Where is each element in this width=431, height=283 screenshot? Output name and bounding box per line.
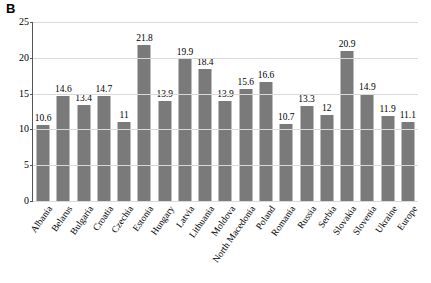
y-gridline [33,58,418,59]
panel-label: B [6,2,15,16]
bar-value-label: 21.8 [136,33,153,43]
bar[interactable] [219,101,232,201]
bar-slot: 18.4 [195,22,215,201]
bar-value-label: 12 [322,103,332,113]
bar[interactable] [280,124,293,201]
bar-slot: 11.9 [377,22,397,201]
bar[interactable] [77,105,90,201]
x-tick-label: Europe [395,204,419,232]
y-tick-label: 0 [24,196,29,206]
y-gridline [33,94,418,95]
bar-slot: 14.7 [94,22,114,201]
y-tick-mark [30,129,33,130]
x-axis-labels: AlbaniaBelarusBulgariaCroatiaCzechiaEsto… [32,204,418,264]
bar-series: 10.614.613.414.71121.813.919.918.413.915… [33,22,418,201]
bar-slot: 11 [114,22,134,201]
bar-slot: 10.7 [276,22,296,201]
bar[interactable] [341,51,354,201]
bar[interactable] [260,82,273,201]
bar[interactable] [320,115,333,201]
y-tick-label: 5 [24,160,29,170]
bar-slot: 14.9 [357,22,377,201]
bar[interactable] [239,89,252,201]
x-tick-label-wrap: Albania [29,204,54,234]
y-tick-mark [30,22,33,23]
y-gridline [33,22,418,23]
bar-slot: 21.8 [134,22,154,201]
y-tick-mark [30,58,33,59]
bar[interactable] [118,122,131,201]
bar-slot: 13.3 [296,22,316,201]
bar[interactable] [300,106,313,201]
x-tick-label-wrap: Europe [395,204,419,232]
bar[interactable] [57,96,70,201]
bar-slot: 14.6 [53,22,73,201]
bar[interactable] [361,94,374,201]
bar-value-label: 11.9 [379,104,395,114]
chart-figure: B 10.614.613.414.71121.813.919.918.413.9… [0,0,431,283]
bar-slot: 13.9 [215,22,235,201]
bar-slot: 11.1 [398,22,418,201]
bar-slot: 15.6 [236,22,256,201]
bar-value-label: 16.6 [258,70,275,80]
bar-value-label: 10.7 [278,112,295,122]
y-tick-label: 10 [19,124,29,134]
y-gridline [33,201,418,202]
bar-slot: 19.9 [175,22,195,201]
bar-value-label: 19.9 [177,47,194,57]
plot-area: 10.614.613.414.71121.813.919.918.413.915… [32,22,418,202]
bar-value-label: 13.3 [298,94,315,104]
x-tick-label-wrap: Russia [295,204,318,230]
x-tick-label: Albania [29,204,54,234]
bar-slot: 16.6 [256,22,276,201]
bar-value-label: 14.7 [96,84,113,94]
bar[interactable] [199,69,212,201]
bar[interactable] [138,45,151,201]
bar-value-label: 14.9 [359,82,376,92]
y-tick-mark [30,201,33,202]
bar-slot: 20.9 [337,22,357,201]
bar-slot: 13.9 [155,22,175,201]
bar-slot: 13.4 [74,22,94,201]
bar-value-label: 20.9 [339,39,356,49]
bar[interactable] [37,125,50,201]
y-tick-mark [30,165,33,166]
bar[interactable] [401,122,414,201]
y-gridline [33,129,418,130]
y-tick-label: 15 [19,89,29,99]
bar[interactable] [97,96,110,201]
bar-value-label: 11 [120,110,129,120]
bar[interactable] [158,101,171,201]
bar-value-label: 10.6 [35,113,52,123]
y-gridline [33,165,418,166]
y-tick-mark [30,94,33,95]
bar-slot: 10.6 [33,22,53,201]
bar-value-label: 11.1 [400,110,416,120]
x-tick-label: Russia [295,204,318,230]
bar-value-label: 15.6 [237,77,254,87]
y-tick-label: 20 [19,53,29,63]
bar-slot: 12 [317,22,337,201]
y-tick-label: 25 [19,17,29,27]
